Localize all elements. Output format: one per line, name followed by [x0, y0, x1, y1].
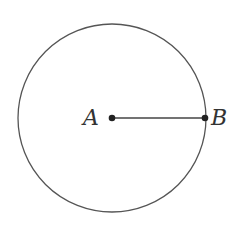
- point-a: [109, 115, 116, 122]
- label-b: B: [211, 107, 227, 129]
- circle-diagram: [0, 0, 239, 230]
- label-a: A: [83, 107, 99, 129]
- point-b: [202, 115, 209, 122]
